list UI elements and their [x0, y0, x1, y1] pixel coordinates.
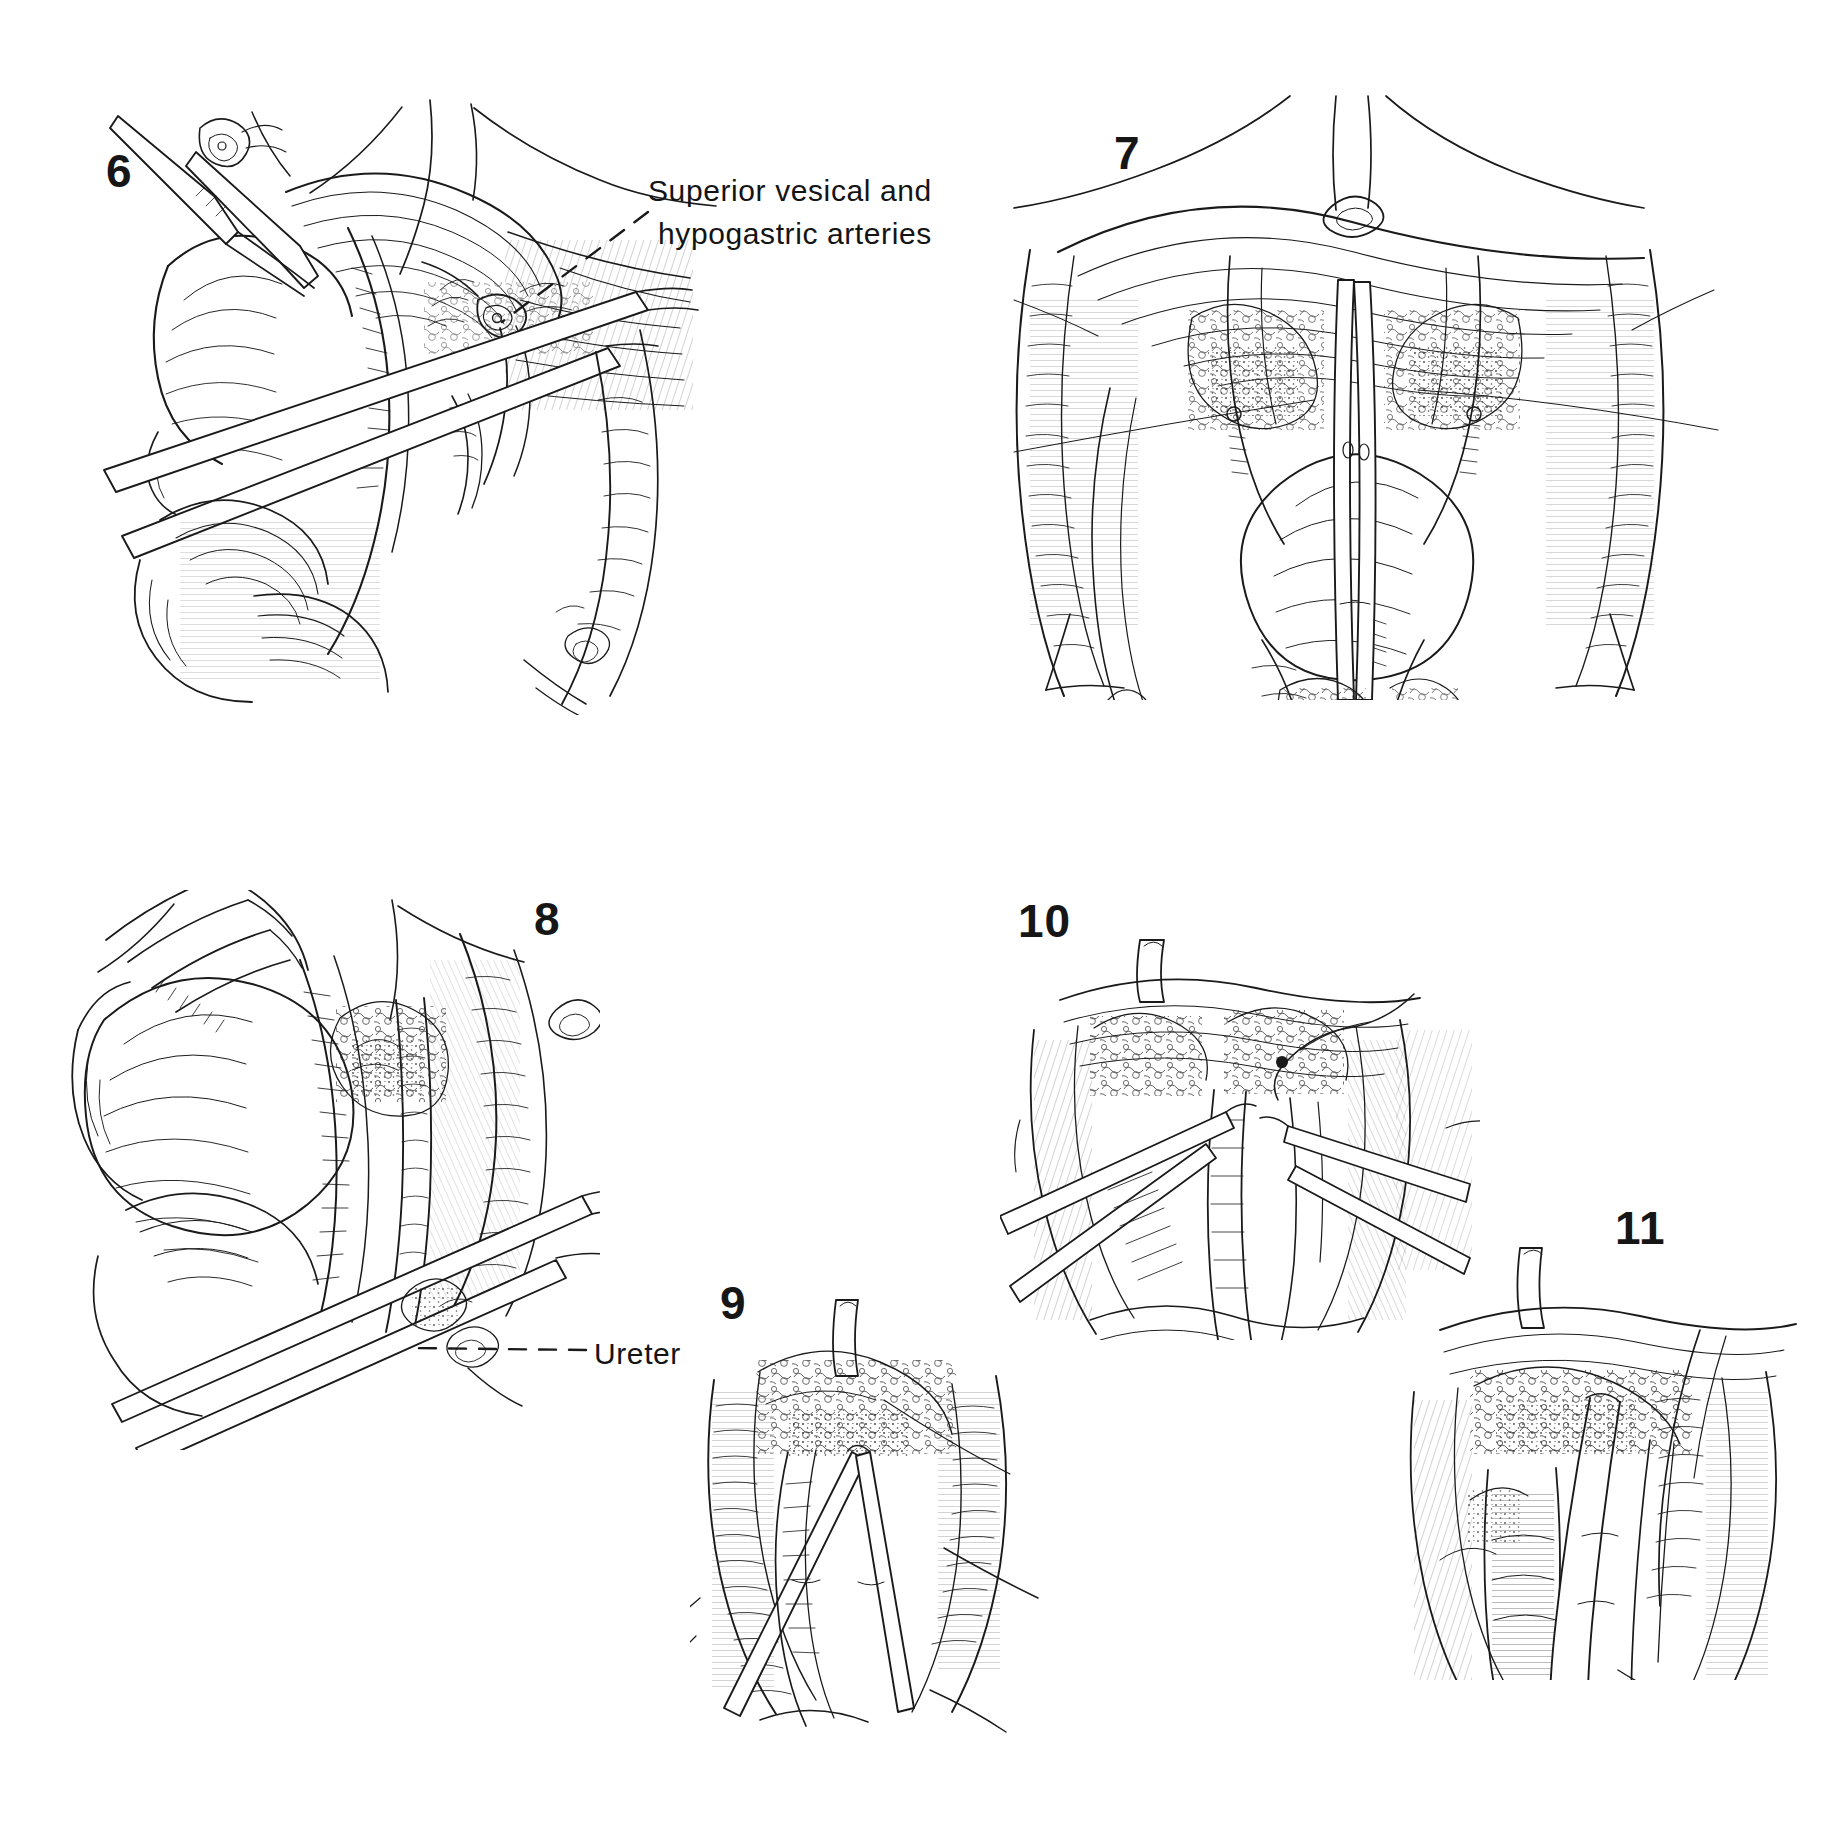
label-line-2: hypogastric arteries [648, 213, 932, 256]
figure-number-9: 9 [720, 1280, 747, 1326]
figure-number-11: 11 [1615, 1205, 1666, 1251]
figure-number-8: 8 [534, 896, 561, 942]
figure-8-illustration [72, 876, 638, 1466]
label-ureter: Ureter [594, 1333, 681, 1376]
atlas-plate: 6 7 8 9 10 11 Superior vesical and hypog… [0, 0, 1827, 1845]
leader-line-ureter [408, 1348, 586, 1350]
figure-6-illustration [104, 100, 716, 716]
figure-7-illustration [1014, 96, 1718, 772]
plate-line-art [0, 0, 1827, 1845]
figure-number-6: 6 [106, 148, 133, 194]
label-line-1: Superior vesical and [648, 174, 932, 207]
figure-number-7: 7 [1114, 130, 1141, 176]
figure-10-illustration [1000, 940, 1494, 1376]
figure-number-10: 10 [1018, 898, 1071, 944]
figure-9-illustration [650, 1300, 1038, 1732]
label-superior-vesical-hypogastric-arteries: Superior vesical and hypogastric arterie… [648, 170, 932, 255]
figure-11-illustration [1411, 1248, 1796, 1764]
